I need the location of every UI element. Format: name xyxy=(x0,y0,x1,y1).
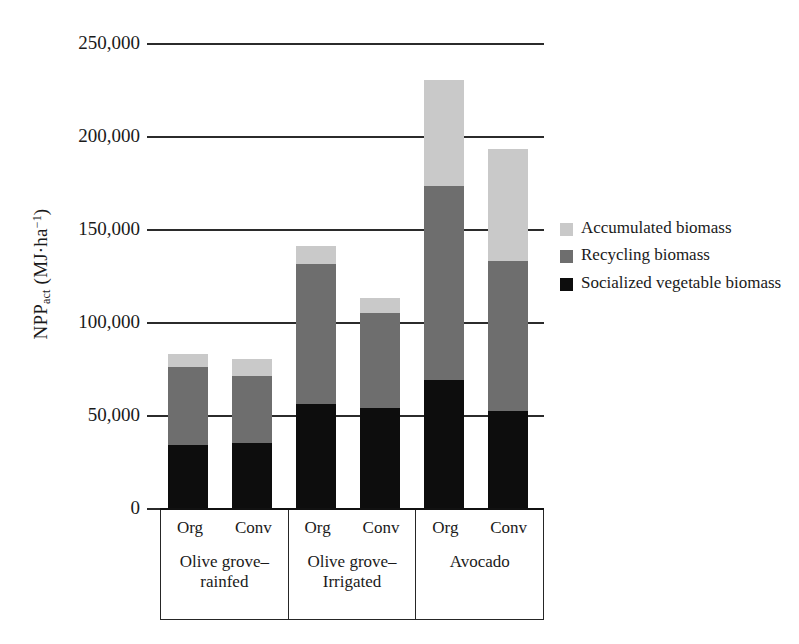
x-axis-group: OrgConvAvocado xyxy=(416,510,543,619)
chart-legend: Accumulated biomassRecycling biomassSoci… xyxy=(560,218,795,300)
legend-swatch-rec xyxy=(560,250,573,263)
y-axis-tick-label: 250,000 xyxy=(20,32,140,54)
y-axis-title-unit-close: ) xyxy=(30,209,51,216)
x-axis-subcategory-label: Org xyxy=(305,518,331,538)
bar-segment-rec xyxy=(424,186,464,379)
bar-segment-soc xyxy=(296,404,336,508)
x-axis-subcategory-label: Conv xyxy=(490,518,527,538)
x-axis-group-container: OrgConvOlive grove–rainfedOrgConvOlive g… xyxy=(160,510,544,620)
gridline xyxy=(160,415,544,417)
stacked-bar[interactable] xyxy=(232,359,272,508)
y-axis-title: NPPact (MJ·ha−1) xyxy=(30,164,54,384)
bar-segment-rec xyxy=(232,376,272,443)
gridline xyxy=(160,229,544,231)
y-axis-tick-label: 100,000 xyxy=(20,311,140,333)
y-axis-tick-label: 200,000 xyxy=(20,125,140,147)
stacked-bar[interactable] xyxy=(488,149,528,508)
bar-segment-acc xyxy=(168,354,208,367)
x-axis-subcategory-row: OrgConv xyxy=(289,518,416,538)
bar-segment-acc xyxy=(424,80,464,186)
x-axis-group-label: Avocado xyxy=(416,552,543,572)
legend-swatch-soc xyxy=(560,278,573,291)
y-axis-tick xyxy=(147,43,160,45)
chart-figure: NPPact (MJ·ha−1) 050,000100,000150,00020… xyxy=(0,0,799,644)
bar-segment-rec xyxy=(168,367,208,445)
legend-label: Recycling biomass xyxy=(581,245,710,265)
y-axis-tick xyxy=(147,229,160,231)
y-axis-tick-label: 50,000 xyxy=(20,404,140,426)
legend-label: Socialized vegetable biomass xyxy=(581,273,781,293)
bar-segment-rec xyxy=(360,313,400,408)
stacked-bar[interactable] xyxy=(360,298,400,508)
x-axis-subcategory-row: OrgConv xyxy=(416,518,543,538)
x-axis-group-label: Olive grove–Irrigated xyxy=(289,552,416,592)
stacked-bar[interactable] xyxy=(168,354,208,508)
x-axis-subcategory-label: Conv xyxy=(363,518,400,538)
bar-segment-soc xyxy=(232,443,272,508)
y-axis-tick xyxy=(147,322,160,324)
legend-label: Accumulated biomass xyxy=(581,218,732,238)
stacked-bar[interactable] xyxy=(296,246,336,508)
bar-segment-acc xyxy=(296,246,336,265)
x-axis-subcategory-label: Org xyxy=(432,518,458,538)
plot-area: 050,000100,000150,000200,000250,000 xyxy=(160,43,544,508)
gridline xyxy=(160,43,544,45)
x-axis-group: OrgConvOlive grove–rainfed xyxy=(161,510,289,619)
bar-segment-acc xyxy=(360,298,400,313)
y-axis-tick-label: 150,000 xyxy=(20,218,140,240)
bar-segment-soc xyxy=(488,411,528,508)
stacked-bar[interactable] xyxy=(424,80,464,508)
y-axis-title-subscript: act xyxy=(39,289,53,304)
bar-segment-soc xyxy=(168,445,208,508)
y-axis-tick-label: 0 xyxy=(20,497,140,519)
x-axis-subcategory-label: Org xyxy=(177,518,203,538)
legend-item[interactable]: Recycling biomass xyxy=(560,245,795,265)
bar-segment-acc xyxy=(488,149,528,261)
y-axis-tick xyxy=(147,415,160,417)
legend-item[interactable]: Socialized vegetable biomass xyxy=(560,273,795,293)
x-axis-group-label: Olive grove–rainfed xyxy=(161,552,288,592)
bar-segment-rec xyxy=(296,264,336,404)
bar-segment-soc xyxy=(424,380,464,508)
legend-item[interactable]: Accumulated biomass xyxy=(560,218,795,238)
gridline xyxy=(160,136,544,138)
legend-swatch-acc xyxy=(560,223,573,236)
x-axis-subcategory-label: Conv xyxy=(235,518,272,538)
x-axis-subcategory-row: OrgConv xyxy=(161,518,288,538)
bar-segment-rec xyxy=(488,261,528,412)
bar-segment-soc xyxy=(360,408,400,508)
y-axis-tick xyxy=(147,508,160,510)
gridline xyxy=(160,322,544,324)
x-axis-group: OrgConvOlive grove–Irrigated xyxy=(289,510,417,619)
bar-segment-acc xyxy=(232,359,272,376)
y-axis-tick xyxy=(147,136,160,138)
